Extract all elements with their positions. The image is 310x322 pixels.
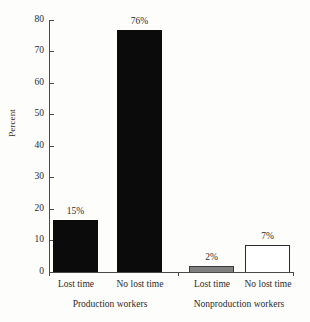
y-tick-60 [49,83,54,84]
x-tick-mid [178,272,179,276]
y-tick-label-40: 40 [22,140,44,150]
y-tick-70 [49,51,54,52]
bar-chart: Percent 80 70 60 50 40 30 20 10 0 15% 76… [0,0,310,322]
x-label-production-no-lost-time: No lost time [101,279,179,289]
group-label-nonproduction-workers: Nonproduction workers [174,299,304,309]
x-label-nonproduction-no-lost-time: No lost time [229,279,307,289]
y-tick-label-0: 0 [22,266,44,276]
y-tick-label-10: 10 [22,234,44,244]
y-tick-40 [49,146,54,147]
y-tick-30 [49,177,54,178]
y-tick-label-70: 70 [22,45,44,55]
y-axis-title: Percent [7,93,17,153]
y-tick-label-50: 50 [22,108,44,118]
bar-value-nonproduction-lost-time: 2% [189,252,234,262]
x-tick-right [293,272,294,276]
group-label-production-workers: Production workers [42,299,178,309]
y-tick-label-20: 20 [22,203,44,213]
bar-nonproduction-no-lost-time [245,245,290,273]
y-tick-label-80: 80 [22,14,44,24]
bar-value-production-no-lost-time: 76% [117,16,162,26]
x-axis-line [49,272,294,273]
bar-production-lost-time [53,220,98,274]
y-tick-50 [49,114,54,115]
y-tick-label-60: 60 [22,77,44,87]
y-tick-80 [49,20,54,21]
bar-production-no-lost-time [117,30,162,273]
x-tick-left [49,272,50,276]
bar-value-nonproduction-no-lost-time: 7% [245,231,290,241]
y-tick-label-30: 30 [22,171,44,181]
bar-value-production-lost-time: 15% [53,206,98,216]
